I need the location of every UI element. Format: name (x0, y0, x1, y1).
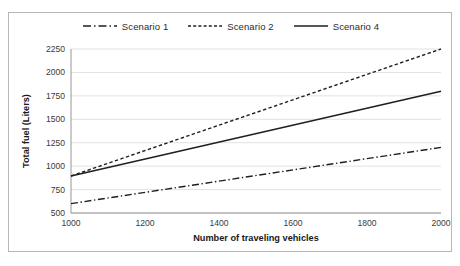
x-tick-label: 2000 (431, 218, 450, 228)
x-tick-label: 1000 (61, 218, 80, 228)
y-tick-label: 1750 (46, 91, 65, 101)
plot-area: 500750100012501500175020002250 100012001… (9, 13, 453, 253)
y-tick-label: 1500 (46, 114, 65, 124)
y-tick-label: 1000 (46, 161, 65, 171)
x-tick-label: 1400 (209, 218, 228, 228)
y-axis-tick-labels: 500750100012501500175020002250 (46, 44, 65, 218)
series-line-scenario-2 (71, 49, 441, 176)
x-axis-tick-labels: 100012001400160018002000 (61, 218, 450, 228)
chart-frame: Scenario 1 Scenario 2 Scenario 4 5007501… (8, 12, 452, 252)
x-axis-title: Number of traveling vehicles (193, 233, 319, 243)
x-tick-label: 1800 (357, 218, 376, 228)
x-tick-label: 1200 (135, 218, 154, 228)
series-line-scenario-1 (71, 147, 441, 203)
y-tick-label: 2000 (46, 67, 65, 77)
x-tick-label: 1600 (283, 218, 302, 228)
axis-lines (71, 49, 441, 213)
series-line-scenario-4 (71, 91, 441, 176)
gridlines (71, 49, 441, 213)
chart-svg: 500750100012501500175020002250 100012001… (9, 13, 453, 253)
y-tick-label: 500 (51, 208, 66, 218)
y-tick-label: 750 (51, 185, 66, 195)
y-tick-label: 1250 (46, 138, 65, 148)
y-axis-title: Total fuel (Liters) (21, 94, 31, 168)
y-tick-label: 2250 (46, 44, 65, 54)
